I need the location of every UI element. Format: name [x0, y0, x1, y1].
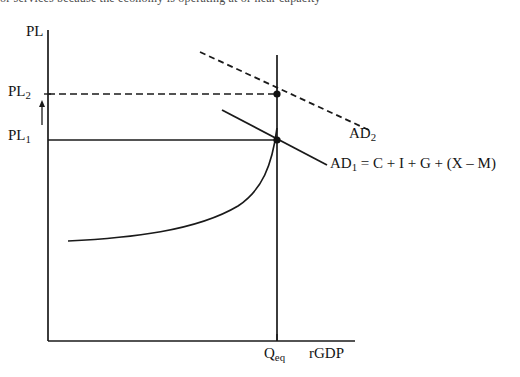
ad2-curve-label: AD2	[349, 126, 376, 143]
equilibrium-point-ad2	[273, 90, 280, 97]
price-level-increase-arrow	[39, 100, 45, 125]
qeq-tick-label: Qeq	[264, 346, 285, 363]
ad2-curve	[200, 52, 371, 131]
ad1-curve-label: AD1 = C + I + G + (X – M)	[330, 156, 496, 173]
sras-curve	[68, 128, 277, 241]
equilibrium-point-ad1	[273, 136, 280, 143]
x-axis-label: rGDP	[309, 346, 344, 361]
ad-as-diagram: or services because the economy is opera…	[0, 0, 520, 377]
graph-canvas	[0, 0, 520, 377]
pl2-tick-label: PL2	[8, 84, 31, 101]
y-axis-label: PL	[26, 24, 44, 39]
pl1-tick-label: PL1	[8, 128, 31, 145]
